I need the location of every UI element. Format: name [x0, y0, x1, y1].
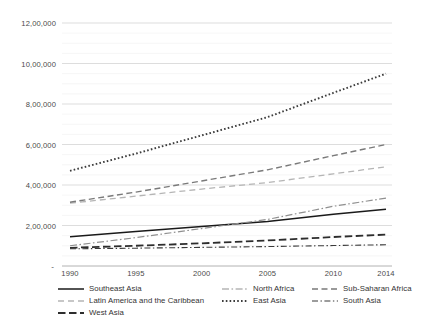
- line-chart: -2,00,0004,00,0006,00,0008,00,00010,00,0…: [0, 0, 427, 328]
- x-tick-label: 2000: [193, 269, 210, 278]
- legend-item[interactable]: Southeast Asia: [58, 283, 142, 294]
- x-tick-label: 2005: [259, 269, 276, 278]
- legend-item-label: South Asia: [343, 296, 381, 306]
- legend-line-swatch: [58, 284, 84, 294]
- legend-line-swatch: [58, 296, 84, 306]
- legend-item[interactable]: Sub-Saharan Africa: [312, 283, 412, 294]
- x-tick-label: 1995: [127, 269, 144, 278]
- legend-item-label: Latin America and the Caribbean: [89, 296, 204, 306]
- legend-item[interactable]: West Asia: [58, 307, 124, 318]
- legend-line-swatch: [222, 284, 248, 294]
- x-axis: 199019952000200520102014: [0, 266, 427, 282]
- legend-item[interactable]: East Asia: [222, 295, 286, 306]
- chart-legend: Southeast AsiaNorth AfricaSub-Saharan Af…: [0, 283, 427, 328]
- legend-line-swatch: [312, 284, 338, 294]
- legend-item-label: West Asia: [89, 308, 124, 318]
- legend-item[interactable]: South Asia: [312, 295, 381, 306]
- x-tick-label: 2010: [325, 269, 342, 278]
- legend-item-label: Southeast Asia: [89, 284, 142, 294]
- legend-line-swatch: [222, 296, 248, 306]
- legend-item[interactable]: Latin America and the Caribbean: [58, 295, 204, 306]
- series-line: [70, 74, 386, 171]
- legend-item-label: North Africa: [253, 284, 294, 294]
- legend-line-swatch: [58, 308, 84, 318]
- legend-line-swatch: [312, 296, 338, 306]
- x-tick-label: 1990: [61, 269, 78, 278]
- x-tick-label: 2014: [377, 269, 394, 278]
- plot-area: -2,00,0004,00,0006,00,0008,00,00010,00,0…: [0, 0, 427, 275]
- legend-item-label: East Asia: [253, 296, 286, 306]
- plot-lines: [0, 0, 427, 275]
- series-line: [70, 209, 386, 236]
- legend-item-label: Sub-Saharan Africa: [343, 284, 412, 294]
- legend-item[interactable]: North Africa: [222, 283, 294, 294]
